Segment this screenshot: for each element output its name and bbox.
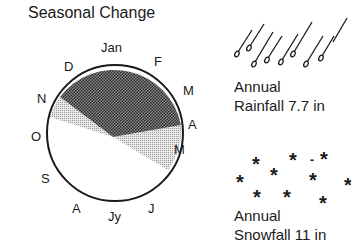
month-label-may: M	[174, 143, 185, 157]
winter-wedge	[60, 70, 181, 137]
month-label-jan: Jan	[101, 41, 122, 55]
month-label-mar: M	[183, 84, 194, 98]
month-label-sep: S	[41, 172, 50, 186]
month-label-jul: Jy	[108, 210, 121, 224]
rainfall-caption: Annual Rainfall 7.7 in	[234, 77, 325, 115]
raindrops-icon	[234, 18, 347, 68]
month-label-feb: F	[154, 55, 162, 69]
month-label-aug: A	[72, 202, 81, 216]
month-label-jun: J	[148, 202, 155, 216]
month-label-apr: A	[188, 118, 197, 132]
snowfall-caption: Annual Snowfall 11 in	[234, 206, 326, 244]
month-label-nov: N	[37, 92, 46, 106]
month-label-dec: D	[64, 60, 73, 74]
month-label-oct: O	[31, 130, 41, 144]
